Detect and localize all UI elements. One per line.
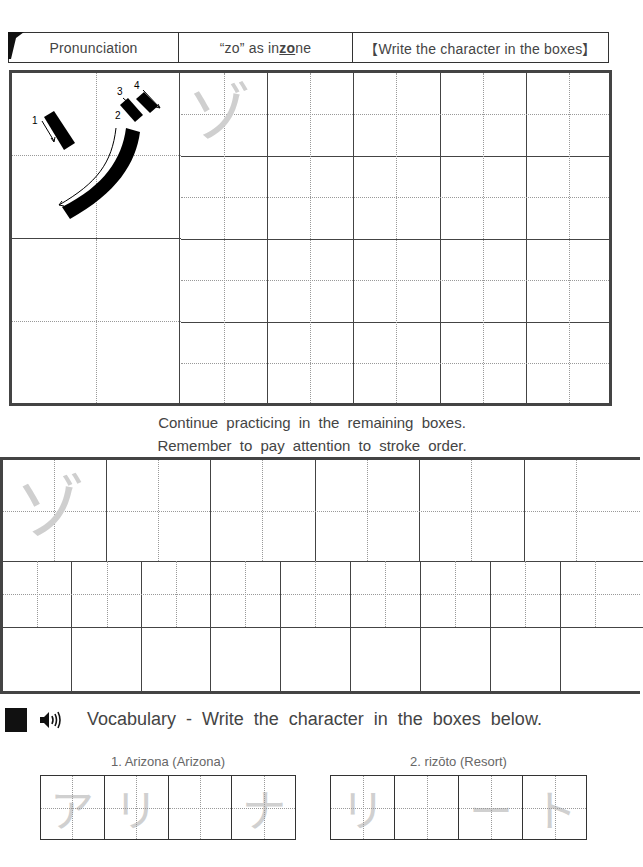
vocab-cell[interactable]: リ bbox=[105, 776, 169, 839]
vocab-cell[interactable]: ア bbox=[41, 776, 105, 839]
example-suffix: ne bbox=[295, 40, 311, 56]
vocab-word-2-label: 2. rizōto (Resort) bbox=[330, 754, 587, 769]
speaker-icon[interactable] bbox=[38, 710, 62, 730]
svg-text:2: 2 bbox=[115, 110, 121, 121]
black-square-icon bbox=[5, 708, 27, 732]
vocab-word-1-boxes[interactable]: ア リ ナ bbox=[40, 775, 296, 840]
trace-character: ゾ bbox=[187, 73, 251, 153]
stroke-order-diagram-icon: 1 2 3 4 bbox=[12, 73, 181, 238]
blank-large-box[interactable] bbox=[12, 238, 181, 403]
svg-text:4: 4 bbox=[134, 80, 140, 91]
vocab-cell[interactable]: ー bbox=[459, 776, 523, 839]
vocabulary-title: Vocabulary - Write the character in the … bbox=[87, 709, 542, 730]
vocab-word-1-label: 1. Arizona (Arizona) bbox=[40, 754, 296, 769]
example-highlight: zo bbox=[279, 40, 295, 56]
extra-practice-grid[interactable]: ゾ bbox=[0, 457, 640, 694]
instruction-label: 【Write the character in the boxes】 bbox=[353, 33, 608, 62]
small-cells-grid[interactable]: ゾ bbox=[181, 73, 609, 403]
vocab-cell[interactable]: ナ bbox=[232, 776, 295, 839]
instruction-line-1: Continue practicing in the remaining box… bbox=[0, 414, 624, 431]
vocab-cell[interactable]: ト bbox=[523, 776, 586, 839]
main-practice-grid: 1 2 3 4 ゾ bbox=[9, 70, 612, 406]
corner-tab-icon bbox=[8, 32, 24, 59]
svg-text:1: 1 bbox=[32, 115, 38, 126]
pronunciation-header: Pronunciation “zo” as in zone 【Write the… bbox=[8, 32, 609, 63]
example-prefix: “zo” as in bbox=[220, 40, 280, 56]
vocab-word-2-boxes[interactable]: リ ー ト bbox=[330, 775, 587, 840]
vocab-cell[interactable] bbox=[169, 776, 233, 839]
vocab-cell[interactable]: リ bbox=[331, 776, 395, 839]
svg-text:3: 3 bbox=[117, 86, 123, 97]
trace-character-2: ゾ bbox=[15, 462, 85, 557]
pronunciation-example: “zo” as in zone bbox=[179, 33, 353, 62]
stroke-order-box: 1 2 3 4 bbox=[12, 73, 181, 238]
vocab-cell[interactable] bbox=[395, 776, 459, 839]
instruction-line-2: Remember to pay attention to stroke orde… bbox=[0, 437, 624, 454]
pronunciation-label: Pronunciation bbox=[9, 33, 179, 62]
